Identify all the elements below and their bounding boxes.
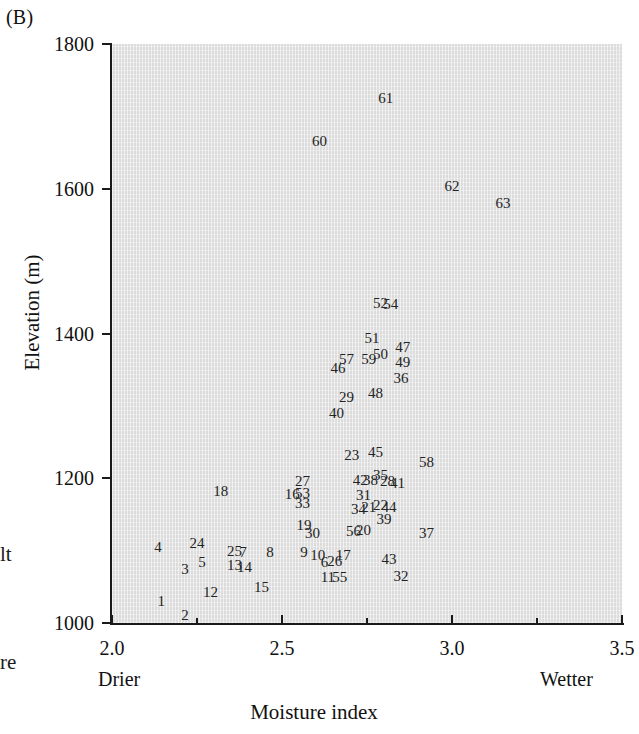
data-point-26: 26 <box>327 553 342 568</box>
data-point-49: 49 <box>395 355 410 370</box>
x-tick-2.0 <box>111 615 113 624</box>
y-axis-title: Elevation (m) <box>20 193 45 433</box>
y-tick-1000 <box>102 622 111 624</box>
wetter-annotation: Wetter <box>540 668 593 691</box>
y-tick-label-1200: 1200 <box>28 468 94 488</box>
data-point-59: 59 <box>361 351 376 366</box>
drier-annotation: Drier <box>98 668 140 691</box>
data-point-2: 2 <box>181 608 189 623</box>
x-tick-minor-3.25 <box>536 618 538 624</box>
data-point-57: 57 <box>339 351 354 366</box>
data-point-32: 32 <box>394 568 409 583</box>
data-point-23: 23 <box>344 448 359 463</box>
data-point-63: 63 <box>496 195 511 210</box>
data-point-51: 51 <box>365 330 380 345</box>
margin-text-fragment-2: re <box>0 650 16 675</box>
data-point-53: 53 <box>295 485 310 500</box>
data-point-37: 37 <box>419 526 434 541</box>
data-point-3: 3 <box>181 562 189 577</box>
data-point-56: 56 <box>346 524 361 539</box>
data-point-44: 44 <box>382 500 397 515</box>
data-point-36: 36 <box>394 371 409 386</box>
data-point-34: 34 <box>351 501 366 516</box>
data-point-24: 24 <box>190 536 205 551</box>
y-tick-1800 <box>102 43 111 45</box>
x-axis-title: Moisture index <box>0 700 628 725</box>
x-tick-3.0 <box>451 615 453 624</box>
data-point-5: 5 <box>198 555 206 570</box>
x-tick-label-2.0: 2.0 <box>82 638 142 658</box>
data-point-14: 14 <box>237 559 252 574</box>
data-point-54: 54 <box>383 296 398 311</box>
data-point-45: 45 <box>368 445 383 460</box>
panel-letter: (B) <box>6 6 33 29</box>
data-point-55: 55 <box>332 570 347 585</box>
x-tick-minor-2.25 <box>196 618 198 624</box>
y-tick-1400 <box>102 333 111 335</box>
data-point-12: 12 <box>203 584 218 599</box>
data-point-4: 4 <box>154 540 162 555</box>
data-point-1: 1 <box>158 594 166 609</box>
data-point-18: 18 <box>213 484 228 499</box>
data-point-9: 9 <box>300 545 308 560</box>
margin-text-fragment-1: lt <box>0 542 12 567</box>
data-point-25: 25 <box>227 543 242 558</box>
data-point-30: 30 <box>305 526 320 541</box>
y-tick-1600 <box>102 188 111 190</box>
x-tick-2.5 <box>281 615 283 624</box>
data-point-48: 48 <box>368 385 383 400</box>
data-point-62: 62 <box>445 178 460 193</box>
data-point-29: 29 <box>339 390 354 405</box>
data-point-58: 58 <box>419 454 434 469</box>
data-point-61: 61 <box>378 90 393 105</box>
x-tick-label-2.5: 2.5 <box>252 638 312 658</box>
data-point-10: 10 <box>310 547 325 562</box>
x-tick-minor-2.75 <box>366 618 368 624</box>
data-point-60: 60 <box>312 133 327 148</box>
data-point-40: 40 <box>329 406 344 421</box>
y-tick-label-1800: 1800 <box>28 34 94 54</box>
data-point-42: 42 <box>353 472 368 487</box>
y-tick-label-1000: 1000 <box>28 613 94 633</box>
data-point-15: 15 <box>254 579 269 594</box>
y-tick-1200 <box>102 477 111 479</box>
data-point-41: 41 <box>390 476 405 491</box>
data-point-43: 43 <box>382 552 397 567</box>
x-tick-3.5 <box>621 615 623 624</box>
data-point-47: 47 <box>395 339 410 354</box>
x-tick-label-3.5: 3.5 <box>592 638 639 658</box>
x-tick-label-3.0: 3.0 <box>422 638 482 658</box>
data-point-8: 8 <box>266 545 274 560</box>
